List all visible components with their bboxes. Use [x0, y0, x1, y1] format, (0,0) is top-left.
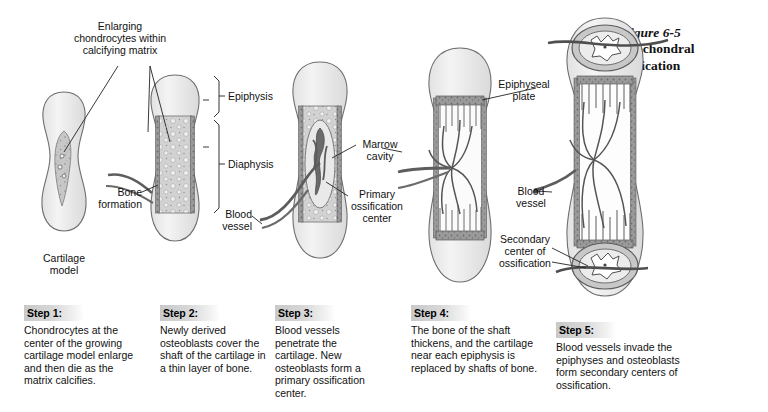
primary-ossification-center-shape: [314, 128, 324, 195]
step-5-header: Step 5:: [556, 322, 616, 338]
step-5: Step 5: Blood vessels invade the epiphys…: [556, 320, 680, 391]
epiphyseal-plate-bottom-5: [577, 240, 633, 248]
stage3-outline: [293, 62, 347, 258]
annotation-cartilage-model: Cartilage model: [28, 252, 100, 276]
step-5-body: Blood vessels invade the epiphyses and o…: [556, 341, 680, 391]
secondary-ossification-center-bottom: [572, 243, 638, 289]
annotation-epiphyseal-plate: Epiphyseal plate: [490, 78, 558, 102]
stage4-marrow: [437, 98, 483, 238]
step-4-header: Step 4:: [411, 305, 471, 321]
annotation-epiphysis: Epiphysis: [228, 90, 273, 102]
stage5-vascular-tree: [570, 100, 626, 228]
bone-collar-right: [191, 116, 195, 213]
step-1-header: Step 1:: [24, 305, 84, 321]
bone-stage-1: [42, 92, 86, 231]
stage4-nutrient-vessel: [398, 168, 450, 172]
stage5-marrow: [578, 78, 632, 246]
figure-caption: ●Figure 6-5 Endochondral Ossification: [612, 24, 762, 74]
bone-stage-4: [398, 48, 491, 282]
marrow-vascular-tree: [429, 120, 477, 214]
step-2: Step 2: Newly derived osteoblasts cover …: [160, 303, 268, 374]
bone-stage-2: [106, 75, 199, 241]
step-4: Step 4: The bone of the shaft thickens, …: [411, 303, 539, 374]
annotation-bone-formation: Bone formation: [82, 186, 142, 210]
step-1-body: Chondrocytes at the center of the growin…: [24, 324, 134, 387]
step-2-body: Newly derived osteoblasts cover the shaf…: [160, 324, 268, 374]
stage2-outline: [151, 75, 199, 241]
annotation-enlarging-chondrocytes: Enlarging chondrocytes within calcifying…: [55, 20, 185, 56]
annotation-blood-vessel-stage5: Blood vessel: [508, 185, 554, 209]
epiphysis-diaphysis-brackets: [214, 76, 225, 213]
bone-spicules-bottom: [440, 204, 481, 231]
bullet-icon: ●: [612, 24, 621, 39]
marrow-cavity-shape: [305, 120, 335, 208]
calcifying-matrix-region: [55, 131, 71, 206]
epiphyseal-plate-top: [436, 96, 484, 105]
nutrient-artery: [260, 163, 320, 220]
stage4-outline: [429, 48, 491, 282]
annotation-marrow-cavity: Marrow cavity: [352, 138, 408, 162]
figure-number: Figure 6-5: [621, 25, 681, 40]
step-3-header: Step 3:: [275, 305, 335, 321]
stage2-calcified-shaft: [158, 116, 192, 213]
annotation-primary-ossification-center: Primary ossification center: [344, 188, 410, 224]
step-3: Step 3: Blood vessels penetrate the cart…: [275, 303, 379, 400]
epiphyseal-plate-top-5: [577, 76, 633, 84]
bone-collar-left: [156, 116, 160, 213]
epiphyseal-plate-bottom: [436, 231, 484, 240]
epiphyseal-vessel-bottom: [556, 267, 648, 272]
step-1: Step 1: Chondrocytes at the center of th…: [24, 303, 134, 387]
step-4-body: The bone of the shaft thickens, and the …: [411, 324, 539, 374]
bone-spicules-top: [440, 105, 481, 132]
figure-number-line: ●Figure 6-5: [612, 24, 762, 40]
figure-canvas: ●Figure 6-5 Endochondral Ossification: [0, 0, 768, 412]
annotation-secondary-center-of-ossification: Secondary center of ossification: [494, 233, 556, 269]
cartilage-model-shape: [42, 92, 86, 231]
figure-title-line-2: Ossification: [612, 58, 762, 74]
annotation-diaphysis: Diaphysis: [228, 158, 274, 170]
step-2-header: Step 2:: [160, 305, 220, 321]
stage3-calcified-shaft: [301, 106, 339, 222]
figure-title-line-1: Endochondral: [612, 41, 762, 57]
annotation-blood-vessel-stage3: Blood vessel: [196, 208, 252, 232]
step-3-body: Blood vessels penetrate the cartilage. N…: [275, 324, 379, 400]
